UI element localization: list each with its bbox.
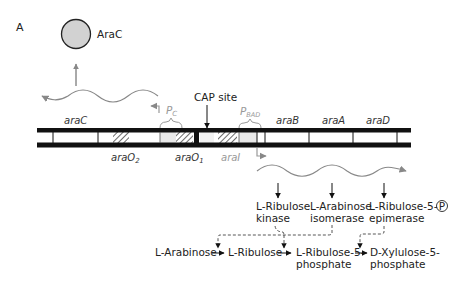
- arac-protein-label: AraC: [97, 28, 122, 40]
- pbad-promoter-arrow: [257, 148, 266, 156]
- pbad-promoter-label: PBAD: [240, 105, 260, 119]
- arai-site: [218, 132, 237, 143]
- enzyme-epimerase: L-Ribulose-5- P epimerase: [369, 200, 448, 225]
- pc-brace: [160, 118, 182, 128]
- pathway-ribulose: L-Ribulose: [228, 246, 282, 258]
- pathway: L-Arabinose L-Ribulose L-Ribulose-5- pho…: [155, 246, 440, 270]
- arac-mrna-wave: [42, 90, 158, 102]
- pathway-ribulose-5p-line1: L-Ribulose-5-: [296, 246, 365, 258]
- dna-top-strand: [37, 128, 411, 133]
- pathway-arabinose: L-Arabinose: [155, 246, 217, 258]
- arai-label: araI: [221, 152, 240, 163]
- enzyme-isomerase: L-Arabinose isomerase: [310, 200, 372, 224]
- arabinose-operon-diagram: A AraC PC CAP site PBAD araC araB araA a…: [0, 0, 457, 291]
- cap-region: [200, 132, 214, 143]
- diagram-svg: A AraC PC CAP site PBAD araC araB araA a…: [0, 0, 457, 291]
- pc-promoter-label: PC: [166, 104, 177, 118]
- dna-bottom-strand: [37, 143, 411, 148]
- gene-arad-label: araD: [366, 115, 390, 126]
- enzyme-kinase: L-Ribulose kinase: [256, 200, 310, 224]
- arao1-label: araO1: [175, 152, 204, 165]
- svg-text:L-Arabinose: L-Arabinose: [310, 200, 372, 212]
- gene-arac-label: araC: [64, 115, 87, 126]
- dna-duplex: [37, 128, 411, 148]
- pc-promoter-arrow: [151, 106, 159, 113]
- svg-text:L-Ribulose-5-: L-Ribulose-5-: [369, 200, 438, 212]
- svg-text:epimerase: epimerase: [369, 212, 424, 224]
- gene-araa-label: araA: [322, 115, 345, 126]
- pathway-xylulose-5p-line1: D-Xylulose-5-: [370, 246, 440, 258]
- arao2-site: [113, 132, 129, 143]
- pbad-region: [239, 132, 257, 143]
- svg-text:isomerase: isomerase: [310, 212, 364, 224]
- arao2-label: araO2: [111, 152, 140, 165]
- svg-text:P: P: [439, 200, 445, 212]
- arac-protein-circle: [62, 20, 91, 49]
- pbad-brace: [239, 119, 261, 128]
- arao1-site: [176, 132, 193, 143]
- pc-region: [160, 132, 176, 143]
- gene-arab-label: araB: [276, 115, 299, 126]
- arabad-mrna-wave: [257, 165, 406, 176]
- panel-label: A: [16, 21, 24, 34]
- pathway-ribulose-5p-line2: phosphate: [296, 258, 352, 270]
- cap-site-label: CAP site: [194, 91, 237, 103]
- svg-text:kinase: kinase: [256, 212, 290, 224]
- svg-text:L-Ribulose: L-Ribulose: [256, 200, 310, 212]
- pathway-xylulose-5p-line2: phosphate: [370, 258, 426, 270]
- catalysis-dashed-lines: [218, 225, 384, 248]
